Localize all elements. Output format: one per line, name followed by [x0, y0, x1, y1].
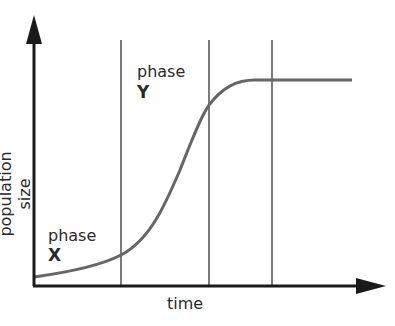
phase-y-letter: Y	[137, 82, 149, 102]
phase-y-label: phase	[137, 62, 185, 81]
x-axis-label: time	[167, 294, 203, 313]
x-axis-arrow-icon	[356, 278, 386, 294]
growth-curve	[34, 80, 352, 277]
chart-canvas	[0, 0, 395, 326]
y-axis-arrow-icon	[26, 15, 42, 44]
phase-x-letter: X	[48, 245, 61, 265]
phase-x-label: phase	[48, 226, 96, 245]
y-axis-label: population size	[0, 134, 34, 254]
